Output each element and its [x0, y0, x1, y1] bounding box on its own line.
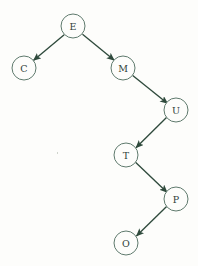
node-P[interactable]: P	[164, 187, 188, 211]
node-label-M: M	[118, 63, 128, 74]
node-T[interactable]: T	[114, 143, 138, 167]
edge-E-C	[33, 35, 64, 61]
node-C[interactable]: C	[12, 56, 36, 80]
edge-E-M	[83, 34, 115, 60]
node-label-C: C	[20, 63, 27, 74]
node-E[interactable]: E	[61, 14, 85, 38]
edge-U-T	[136, 118, 167, 148]
node-label-P: P	[173, 194, 180, 205]
node-label-O: O	[122, 238, 130, 249]
edge-T-P	[136, 162, 168, 192]
node-label-T: T	[123, 150, 130, 161]
node-M[interactable]: M	[111, 56, 135, 80]
node-O[interactable]: O	[114, 231, 138, 255]
edge-group	[33, 34, 167, 236]
node-label-U: U	[172, 105, 180, 116]
node-label-E: E	[70, 21, 77, 32]
tree-diagram-canvas: E C M U T P O	[0, 0, 198, 266]
node-group: E C M U T P O	[12, 14, 188, 255]
edge-P-O	[136, 207, 166, 236]
edge-M-U	[133, 76, 168, 104]
node-U[interactable]: U	[164, 98, 188, 122]
tree-diagram-svg: E C M U T P O	[0, 0, 198, 266]
